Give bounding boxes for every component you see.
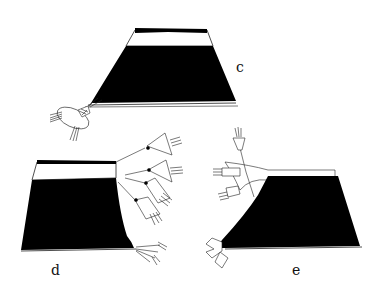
garment-e — [206, 127, 362, 268]
illustration-svg — [0, 0, 377, 285]
panel-label-d: d — [51, 263, 60, 277]
garment-c — [50, 28, 238, 141]
garment-d — [21, 133, 183, 265]
tassel-chain-d — [134, 133, 183, 225]
tassel-bundle-d — [136, 242, 167, 265]
panel-label-e: e — [292, 263, 300, 277]
figure-canvas: c d e — [0, 0, 377, 285]
tassel-bundle-c — [50, 98, 102, 141]
panel-label-c: c — [236, 60, 244, 74]
